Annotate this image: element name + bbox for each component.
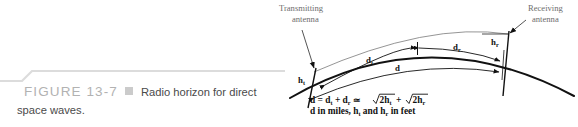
caption-text-line-two: space waves. xyxy=(17,104,85,116)
ht-label-sub: t xyxy=(303,79,306,86)
caption-line-one: FIGURE 13-7Radio horizon for direct xyxy=(24,82,284,102)
hr-label: hr xyxy=(491,37,499,48)
transmitting-antenna-label-line1: Transmitting xyxy=(279,3,324,13)
radical-one-content: 2ht xyxy=(380,95,393,106)
formula-line-1: d = dt + dr ≃ xyxy=(310,95,361,106)
caption-line-two: space waves. xyxy=(17,100,277,118)
dr-label-sub: r xyxy=(458,46,461,53)
formula-plus-sign: + xyxy=(396,95,401,105)
transmitting-antenna-label-line2: antenna xyxy=(292,14,319,24)
receiving-antenna-leader-arrow xyxy=(510,20,526,33)
figure-bullet-marker xyxy=(125,87,133,95)
caption-rule xyxy=(0,62,285,84)
formula-l1-p2: + d xyxy=(333,95,349,105)
caption-text-line-one: Radio horizon for direct xyxy=(141,86,257,98)
line-of-sight-path xyxy=(314,32,508,72)
transmitting-antenna-leader-arrow xyxy=(302,30,314,68)
formula-l1-p3: ≃ xyxy=(351,95,361,105)
dt-dimension-arc xyxy=(325,48,416,85)
formula-line-2: d in miles, ht and hr in feet xyxy=(310,106,416,117)
radical-two-content: 2hr xyxy=(413,95,426,106)
formula-radical-two: 2hr xyxy=(406,94,428,106)
formula-l2-p3: in feet xyxy=(388,106,416,116)
formula-l1-p1: d = d xyxy=(310,95,331,105)
formula-l2-p1: d in miles, h xyxy=(310,106,359,116)
formula-radical-one: 2ht xyxy=(373,94,395,106)
ht-label: ht xyxy=(298,75,306,86)
formula-l2-p2: and h xyxy=(361,106,387,116)
right-dimension-tick xyxy=(502,50,504,80)
receiving-antenna-label-line2: antenna xyxy=(532,14,559,24)
radio-horizon-diagram: Transmitting antenna Receiving antenna h… xyxy=(278,0,578,127)
diagram-svg: Transmitting antenna Receiving antenna h… xyxy=(278,0,578,127)
receiving-antenna-mast xyxy=(503,31,509,96)
d-total-label: d xyxy=(395,63,400,73)
dr-label: dr xyxy=(453,42,461,53)
earth-curve-line xyxy=(290,57,574,98)
figure-caption-block: FIGURE 13-7Radio horizon for direct spac… xyxy=(0,62,285,124)
dt-label: dt xyxy=(366,55,374,66)
figure-number-label: FIGURE 13-7 xyxy=(24,84,118,99)
figure-container: FIGURE 13-7Radio horizon for direct spac… xyxy=(0,0,578,127)
receiving-antenna-label-line1: Receiving xyxy=(528,3,564,13)
hr-label-sub: r xyxy=(496,41,499,48)
radical-two-sub: r xyxy=(422,99,425,106)
